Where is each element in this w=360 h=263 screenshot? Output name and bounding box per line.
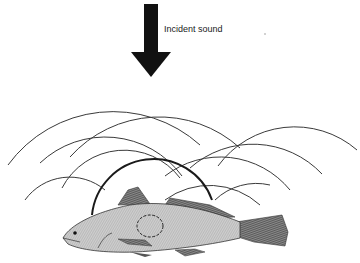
incident-sound-label: Incident sound (164, 24, 223, 34)
fish-eye (73, 231, 77, 235)
scattered-wavefronts (8, 112, 357, 205)
speck (264, 33, 266, 35)
wavefront-arc (8, 112, 200, 165)
wavefront-arc (40, 137, 182, 176)
incident-sound-arrow (131, 4, 171, 77)
wavefront-arc (190, 144, 322, 174)
incident-sound-diagram (0, 0, 360, 263)
wavefront-arc (165, 157, 290, 190)
pelvic-fin (130, 252, 152, 257)
wavefront-arc (215, 183, 270, 200)
wavefront-arc (25, 177, 105, 200)
caudal-fin (236, 215, 288, 246)
dorsal-fin-spiny (118, 187, 150, 205)
anal-fin (175, 249, 205, 256)
